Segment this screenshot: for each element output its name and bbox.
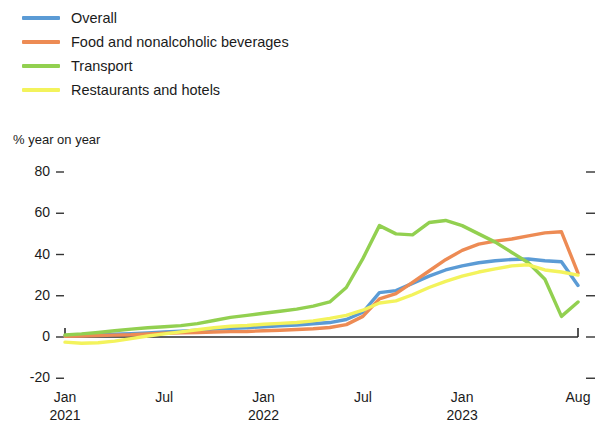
plot-svg <box>0 0 613 432</box>
x-tick-label-1: Jul <box>129 389 199 405</box>
y-tick-label-0: 80 <box>16 163 50 179</box>
x-tick-month-3: Jul <box>354 389 372 405</box>
x-tick-month-0: Jan <box>54 389 77 405</box>
series-line-transport <box>65 220 578 334</box>
y-tick-label-5: -20 <box>16 369 50 385</box>
plot-area <box>0 0 613 432</box>
series-line-overall <box>65 259 578 336</box>
axis-ticks <box>56 172 595 378</box>
x-tick-year-2: 2022 <box>229 407 299 423</box>
inflation-line-chart: OverallFood and nonalcoholic beveragesTr… <box>0 0 613 432</box>
y-tick-label-1: 60 <box>16 204 50 220</box>
x-tick-label-4: Jan2023 <box>427 389 497 423</box>
x-tick-year-4: 2023 <box>427 407 497 423</box>
y-tick-label-3: 20 <box>16 287 50 303</box>
x-tick-month-4: Jan <box>451 389 474 405</box>
x-tick-label-3: Jul <box>328 389 398 405</box>
y-tick-label-2: 40 <box>16 246 50 262</box>
x-tick-month-1: Jul <box>155 389 173 405</box>
x-tick-label-2: Jan2022 <box>229 389 299 423</box>
x-tick-label-0: Jan2021 <box>30 389 100 423</box>
x-tick-year-0: 2021 <box>30 407 100 423</box>
x-tick-label-5: Aug <box>543 389 613 405</box>
y-tick-label-4: 0 <box>16 328 50 344</box>
x-tick-month-2: Jan <box>252 389 275 405</box>
x-tick-month-5: Aug <box>566 389 591 405</box>
